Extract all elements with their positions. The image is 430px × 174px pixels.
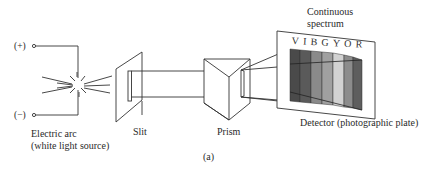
band-g — [322, 52, 333, 105]
source-label-line2: (white light source) — [31, 140, 109, 151]
band-o — [344, 55, 353, 108]
figure-caption: (a) — [203, 151, 214, 162]
positive-terminal-icon — [32, 44, 35, 47]
spectroscope-diagram: (+) (−) Electric arc (white light source… — [0, 0, 430, 174]
band-r — [353, 57, 362, 110]
positive-terminal-label: (+) — [14, 41, 26, 52]
band-b — [311, 51, 322, 104]
light-beam — [132, 71, 206, 97]
negative-terminal-label: (−) — [14, 110, 26, 121]
detector-label: Detector (photographic plate) — [300, 117, 418, 128]
arc-spark-icon — [42, 72, 112, 97]
spectrum-label-line1: Continuous — [307, 6, 353, 17]
slit-plate — [116, 52, 142, 122]
source-label-line1: Electric arc — [31, 128, 77, 139]
spectrum-label-line2: spectrum — [307, 18, 344, 29]
prism-label: Prism — [217, 126, 240, 137]
slit-label: Slit — [133, 126, 147, 137]
negative-terminal-icon — [32, 113, 35, 116]
